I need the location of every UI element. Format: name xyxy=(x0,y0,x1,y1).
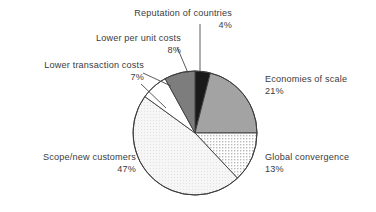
slice-label-text: Economies of scale xyxy=(265,74,347,84)
slice-label-percent: 13% xyxy=(265,164,375,176)
pie-chart: Reputation of countries 4% Lower per uni… xyxy=(0,0,376,212)
slice-label-text: Global convergence xyxy=(265,152,349,162)
slice-label-percent: 7% xyxy=(16,72,144,84)
pie-slices xyxy=(133,71,257,195)
slice-label-scope-new-customers: Scope/new customers 47% xyxy=(14,152,136,175)
slice-label-percent: 47% xyxy=(14,164,136,176)
slice-label-economies-of-scale: Economies of scale 21% xyxy=(265,74,375,97)
slice-label-percent: 4% xyxy=(106,20,232,32)
pie-chart-svg xyxy=(0,0,376,212)
slice-label-reputation-of-countries: Reputation of countries 4% xyxy=(106,8,232,31)
slice-label-text: Lower per unit costs xyxy=(96,33,181,43)
slice-label-text: Lower transaction costs xyxy=(44,60,144,70)
slice-label-lower-per-unit-costs: Lower per unit costs 8% xyxy=(66,33,181,56)
slice-label-text: Scope/new customers xyxy=(43,152,136,162)
slice-label-text: Reputation of countries xyxy=(134,8,232,18)
slice-label-global-convergence: Global convergence 13% xyxy=(265,152,375,175)
slice-label-lower-transaction-costs: Lower transaction costs 7% xyxy=(16,60,144,83)
slice-label-percent: 21% xyxy=(265,86,375,98)
slice-label-percent: 8% xyxy=(66,45,181,57)
